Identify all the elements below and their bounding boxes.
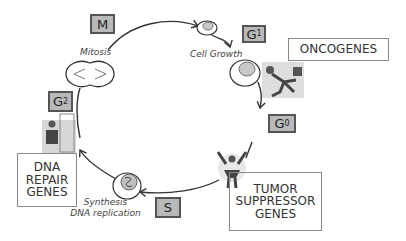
tumor-suppressor-genes-box: TUMOR SUPPRESSOR GENES [229,172,322,231]
synthesis-label-line2: DNA replication [68,208,143,219]
phase-s-label: S [164,201,172,214]
oncogenes-box: ONCOGENES [288,38,389,61]
phase-g0-subscript: 0 [284,120,289,128]
phase-s-badge: S [155,197,181,218]
tumor-suppressor-line2: SUPPRESSOR [236,195,316,208]
small-cell-icon [197,21,217,35]
arrow-m-to-g1 [108,21,198,50]
cell-growth-label: Cell Growth [190,49,242,60]
phase-g2-subscript: 2 [63,98,68,106]
dna-repair-line3: GENES [26,186,67,199]
dna-repair-genes-box: DNA REPAIR GENES [17,153,77,207]
phase-g2-badge: G2 [48,91,73,112]
arrow-s-to-g2 [80,150,116,179]
arrow-g1-to-g0 [258,82,261,108]
arrow-growth [210,34,230,47]
dividing-cell-icon [66,61,114,86]
dna-repair-figure-icon [42,114,76,153]
tumor-suppressor-line3: GENES [255,208,296,221]
mitosis-label: Mitosis [80,47,111,58]
synthesis-label-line1: Synthesis [68,197,143,208]
phase-m-badge: M [90,14,115,34]
large-cell-icon [230,60,260,86]
phase-g0-badge: G0 [268,114,296,133]
phase-g1-badge: G1 [242,25,266,43]
phase-g0-letter: G [274,117,284,130]
arrow-g2-to-m [77,88,80,138]
phase-g1-letter: G [246,28,256,41]
oncogenes-label: ONCOGENES [300,43,377,56]
arrow-g0-to-s [140,180,219,193]
arrow-g0-to-s-part1 [246,142,252,158]
phase-g2-letter: G [53,95,63,108]
dna-repair-line1: DNA [34,161,60,174]
synthesis-cell-icon [113,173,141,199]
phase-m-label: M [97,18,108,31]
oncogene-figure-icon [262,62,304,98]
phase-g1-subscript: 1 [256,30,261,38]
synthesis-label: Synthesis DNA replication [68,197,143,219]
